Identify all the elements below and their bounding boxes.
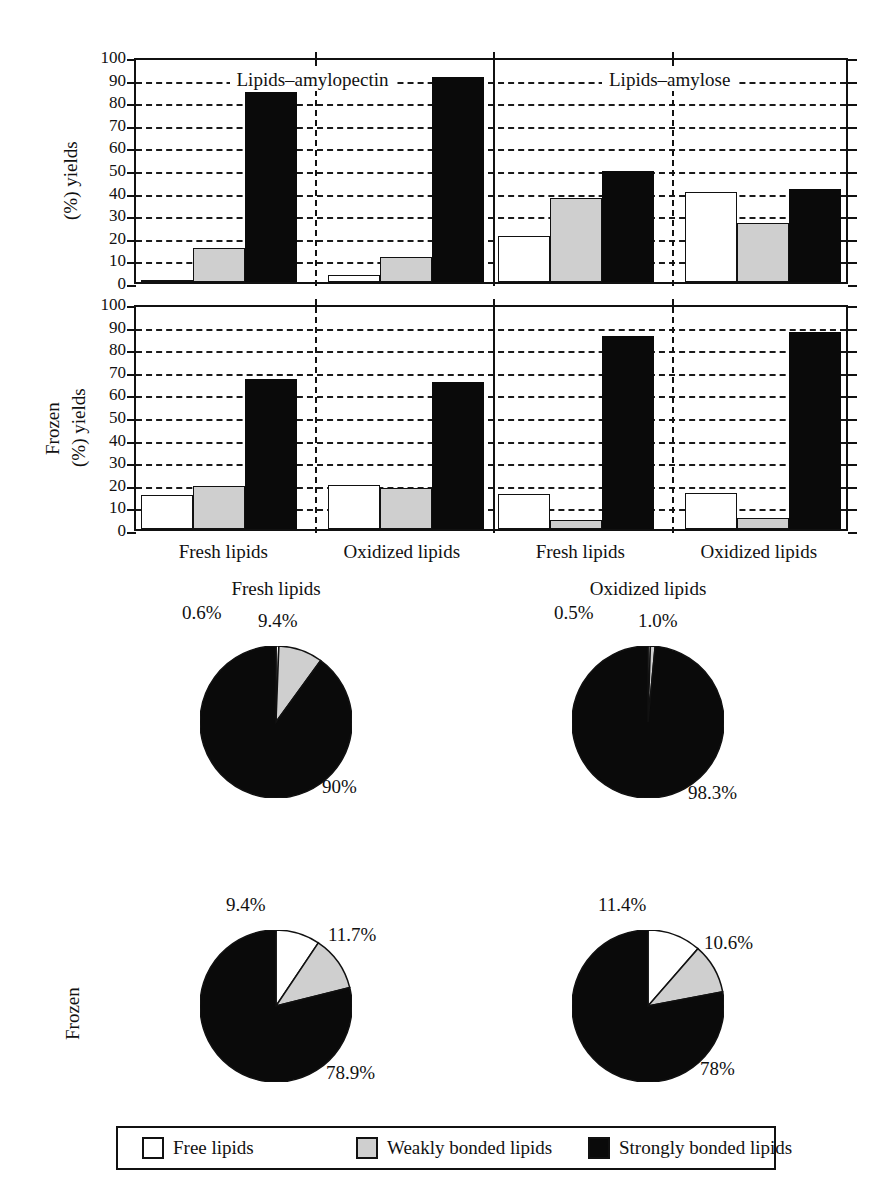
y-axis-tick: [127, 59, 136, 61]
y-axis-tick-label: 30: [86, 207, 126, 224]
y-axis-tick: [127, 374, 136, 376]
legend-label-weak: Weakly bonded lipids: [387, 1137, 552, 1159]
bar-weak: [550, 198, 602, 282]
pie-chart-frozen-fresh-lipids: [200, 930, 352, 1082]
pie-value-label-weak: 11.7%: [328, 924, 376, 946]
panel-separator: [493, 301, 495, 533]
bar-weak: [193, 486, 245, 529]
pie-value-label-weak: 1.0%: [638, 610, 678, 632]
legend-item-free: Free lipids: [142, 1137, 254, 1159]
gridline: [136, 351, 846, 353]
bar-weak: [380, 257, 432, 282]
y-axis-tick: [127, 306, 136, 308]
gridline: [136, 104, 846, 106]
y-axis-tick: [127, 487, 136, 489]
x-axis-tick: [493, 52, 495, 60]
bar-strong: [245, 379, 297, 529]
bar-free: [141, 495, 193, 529]
y-axis-tick-right: [848, 149, 857, 151]
y-axis-tick-label: 100: [86, 49, 126, 66]
group-separator: [315, 307, 317, 533]
legend-label-strong: Strongly bonded lipids: [619, 1137, 792, 1159]
bar-strong: [789, 189, 841, 282]
legend-swatch-weak: [356, 1137, 378, 1159]
x-axis-tick: [493, 299, 495, 307]
y-axis-tick-right: [848, 329, 857, 331]
y-axis-tick-label: 20: [86, 477, 126, 494]
y-axis-tick-label: 50: [86, 162, 126, 179]
legend: Free lipidsWeakly bonded lipidsStrongly …: [116, 1126, 776, 1170]
y-axis-tick: [127, 442, 136, 444]
y-axis-tick-label: 40: [86, 432, 126, 449]
legend-swatch-free: [142, 1137, 164, 1159]
y-axis-tick: [127, 262, 136, 264]
y-axis-tick-right: [848, 285, 857, 287]
y-axis-tick-label: 0: [86, 275, 126, 292]
pie-svg: [572, 646, 724, 798]
pie-value-label-strong: 78%: [700, 1058, 735, 1080]
y-axis-tick-right: [848, 127, 857, 129]
x-axis-tick: [315, 299, 317, 307]
y-axis-tick-right: [848, 509, 857, 511]
pie-title-oxidized: Oxidized lipids: [548, 578, 748, 600]
y-axis-tick-right: [848, 195, 857, 197]
y-axis-tick-label: 10: [86, 252, 126, 269]
bar-free: [328, 485, 380, 529]
y-axis-tick-label: 70: [86, 117, 126, 134]
pie-value-label-weak: 10.6%: [704, 932, 753, 954]
y-axis-tick-right: [848, 59, 857, 61]
y-axis-tick: [127, 532, 136, 534]
y-axis-tick-label: 40: [86, 185, 126, 202]
bar-free: [498, 236, 550, 282]
panel-title-right: Lipids–amylose: [602, 69, 737, 91]
y-axis-tick-right: [848, 487, 857, 489]
y-axis-tick-right: [848, 240, 857, 242]
bar-strong: [602, 336, 654, 529]
y-axis-tick-right: [848, 82, 857, 84]
group-separator: [672, 60, 674, 286]
legend-swatch-strong: [588, 1137, 610, 1159]
y-axis-tick: [127, 329, 136, 331]
bar-weak: [550, 520, 602, 529]
y-axis-tick-right: [848, 351, 857, 353]
pie-value-label-free: 11.4%: [598, 894, 646, 916]
y-axis-tick-label: 60: [86, 386, 126, 403]
y-axis-tick-right: [848, 419, 857, 421]
gridline: [136, 127, 846, 129]
bar-chart-top: [134, 58, 848, 284]
y-axis-tick: [127, 396, 136, 398]
frozen-pie-row-label: Frozen: [62, 987, 84, 1040]
x-axis-label: Fresh lipids: [491, 541, 670, 563]
pie-svg: [200, 930, 352, 1082]
y-axis-tick: [127, 149, 136, 151]
bar-free: [141, 280, 193, 282]
y-axis-tick-label: 70: [86, 364, 126, 381]
y-axis-tick-label: 80: [86, 341, 126, 358]
bar-weak: [737, 518, 789, 529]
group-separator: [672, 307, 674, 533]
pie-value-label-weak: 9.4%: [258, 610, 298, 632]
pie-value-label-strong: 90%: [322, 776, 357, 798]
y-axis-tick: [127, 127, 136, 129]
x-axis-tick: [672, 299, 674, 307]
y-axis-tick: [127, 172, 136, 174]
y-axis-tick-label: 20: [86, 230, 126, 247]
y-axis-tick: [127, 195, 136, 197]
y-axis-tick-label: 10: [86, 499, 126, 516]
y-axis-tick-right: [848, 396, 857, 398]
legend-label-free: Free lipids: [173, 1137, 254, 1159]
y-axis-tick-right: [848, 306, 857, 308]
y-axis-tick-label: 80: [86, 94, 126, 111]
gridline: [136, 195, 846, 197]
pie-title-fresh: Fresh lipids: [176, 578, 376, 600]
y-axis-tick-label: 90: [86, 319, 126, 336]
bar-free: [328, 275, 380, 282]
y-axis-tick-label: 90: [86, 72, 126, 89]
pie-slice-strong: [572, 646, 724, 798]
figure-root: (%) yields Frozen (%) yields Fresh lipid…: [0, 0, 882, 1198]
y-axis-tick: [127, 82, 136, 84]
gridline: [136, 442, 846, 444]
gridline: [136, 172, 846, 174]
bar-strong: [602, 171, 654, 282]
bar-chart-bottom: [134, 305, 848, 531]
